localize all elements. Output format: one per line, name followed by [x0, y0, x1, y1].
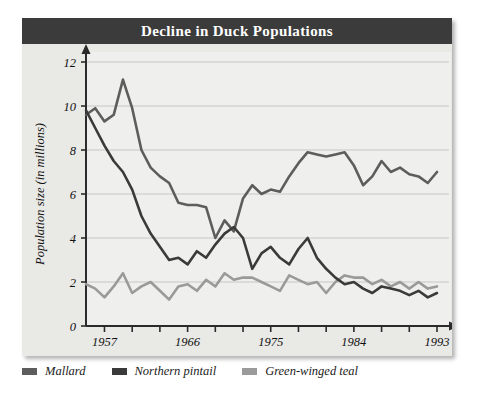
legend-label-teal: Green-winged teal: [265, 364, 358, 379]
y-tick-label-8: 8: [70, 144, 77, 158]
chart-screenshot: Decline in Duck Populations 024681012195…: [0, 0, 481, 397]
legend-item-mallard: Mallard: [22, 364, 86, 379]
legend-item-pintail: Northern pintail: [112, 364, 217, 379]
legend-item-teal: Green-winged teal: [242, 364, 358, 379]
legend-swatch-teal: [242, 368, 257, 375]
x-tick-label-1957: 1957: [92, 335, 118, 349]
legend-swatch-pintail: [112, 368, 127, 375]
chart-legend: MallardNorthern pintailGreen-winged teal: [22, 362, 452, 380]
legend-swatch-mallard: [22, 368, 37, 375]
x-tick-label-1993: 1993: [425, 335, 450, 349]
y-tick-label-0: 0: [70, 320, 77, 334]
page-title: Decline in Duck Populations: [22, 18, 452, 44]
x-tick-label-1984: 1984: [341, 335, 366, 349]
chart-title-bar: Decline in Duck Populations: [22, 18, 452, 44]
x-tick-label-1966: 1966: [175, 335, 201, 349]
x-axis-arrow: [449, 322, 452, 331]
y-tick-label-4: 4: [70, 232, 76, 246]
plot-area: 02468101219571966197519841993Population …: [22, 44, 452, 356]
y-tick-label-2: 2: [70, 276, 76, 290]
y-tick-label-12: 12: [64, 56, 77, 70]
x-tick-label-1975: 1975: [258, 335, 283, 349]
line-chart-svg: 02468101219571966197519841993Population …: [22, 44, 452, 356]
y-axis-title: Population size (in millions): [33, 123, 47, 266]
y-tick-label-6: 6: [70, 188, 77, 202]
legend-label-pintail: Northern pintail: [135, 364, 217, 379]
x-axis-title: Year: [250, 353, 273, 356]
chart-panel: Decline in Duck Populations 024681012195…: [22, 18, 452, 356]
y-tick-label-10: 10: [64, 100, 77, 114]
legend-label-mallard: Mallard: [45, 364, 86, 379]
y-axis-arrow: [82, 44, 91, 54]
